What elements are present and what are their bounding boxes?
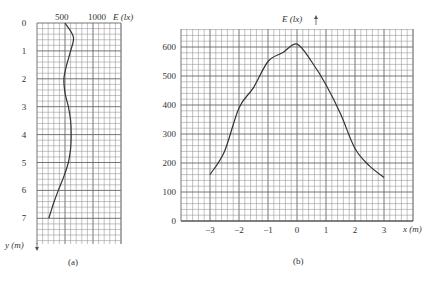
svg-text:500: 500: [163, 71, 177, 81]
svg-text:0: 0: [295, 225, 300, 235]
svg-text:1: 1: [22, 46, 27, 56]
svg-text:4: 4: [22, 130, 27, 140]
curve-panel-a: [49, 23, 74, 218]
b-arrowhead-icon: [314, 15, 318, 19]
a-arrowhead-icon: [35, 247, 39, 251]
svg-text:6: 6: [22, 185, 27, 195]
svg-text:7: 7: [22, 213, 27, 223]
svg-text:100: 100: [163, 187, 177, 197]
svg-text:5: 5: [22, 158, 27, 168]
a-tick-500: 500: [55, 12, 69, 22]
svg-text:−3: −3: [205, 225, 215, 235]
svg-text:3: 3: [382, 225, 387, 235]
b-x-axis-label: x (m): [402, 224, 422, 234]
svg-text:0: 0: [172, 216, 177, 226]
svg-text:2: 2: [353, 225, 358, 235]
grid-panel-b: [181, 29, 413, 221]
svg-text:300: 300: [163, 129, 177, 139]
svg-text:2: 2: [22, 74, 27, 84]
a-y-ticks: 01234567: [22, 18, 27, 223]
svg-text:1: 1: [324, 225, 329, 235]
a-y-axis-label: y (m): [4, 240, 24, 250]
grid-panel-a: [37, 23, 121, 244]
svg-text:400: 400: [163, 100, 177, 110]
svg-text:200: 200: [163, 158, 177, 168]
b-panel-label: (b): [293, 256, 304, 266]
svg-text:−1: −1: [263, 225, 273, 235]
svg-text:600: 600: [163, 42, 177, 52]
a-x-axis-label: E (lx): [112, 12, 133, 22]
b-y-axis-label: E (lx): [281, 14, 302, 24]
svg-text:3: 3: [22, 102, 27, 112]
a-tick-1000: 1000: [88, 12, 107, 22]
b-x-ticks: −3−2−10123: [205, 225, 387, 235]
svg-text:0: 0: [22, 18, 27, 28]
b-y-ticks: 0100200300400500600: [163, 42, 177, 226]
figure: 500 1000 E (lx) 01234567 y (m) (a) E (lx…: [0, 0, 435, 281]
a-panel-label: (a): [68, 257, 78, 267]
svg-text:−2: −2: [234, 225, 244, 235]
